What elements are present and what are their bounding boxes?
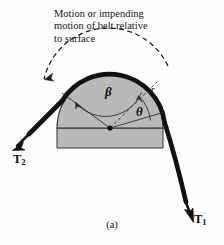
motion-annotation-text: Motion or impending motion of belt relat… — [54, 8, 194, 45]
drum-semicircle — [57, 75, 163, 128]
tension-2-subscript: 2 — [21, 157, 25, 167]
belt-friction-figure: Motion or impending motion of belt relat… — [0, 0, 224, 245]
motion-annotation-line-1: Motion or impending — [54, 8, 194, 20]
belt-tail-left — [17, 132, 31, 146]
drum-base-block — [57, 128, 163, 148]
motion-direction-arrowhead — [45, 74, 54, 82]
drum-center-point — [107, 125, 112, 130]
motion-annotation-line-2: motion of belt relative — [54, 20, 194, 32]
radius-label: r — [151, 85, 155, 95]
beta-angle-label: β — [105, 84, 112, 100]
theta-angle-label: θ — [136, 104, 143, 120]
tension-2-label: T2 — [13, 152, 26, 167]
figure-caption: (a) — [0, 219, 224, 230]
motion-annotation-line-3: to surface — [54, 33, 194, 45]
